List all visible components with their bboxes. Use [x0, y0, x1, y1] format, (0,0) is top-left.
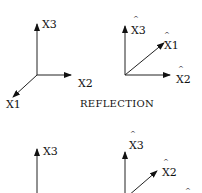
partial-hat-mark: ^: [185, 187, 191, 193]
x2-hat-mark: ^: [163, 158, 169, 166]
bottom-right-axes: ^ X3 ^ X2 ^: [125, 130, 191, 193]
x2-hat-label: X2: [162, 166, 177, 179]
x2-hat-label: X2: [176, 73, 191, 86]
x2-label: X2: [78, 77, 93, 90]
x3-hat-label: X3: [129, 139, 144, 152]
x1-hat-label: X1: [164, 39, 179, 52]
x3-hat-mark: ^: [133, 15, 139, 23]
top-right-axes: ^ X3 ^ X1 ^ X2: [125, 15, 191, 86]
x3-label: X3: [42, 18, 57, 31]
x2-hat-axis-arrow: [128, 171, 157, 193]
bottom-left-axes: X3: [37, 145, 58, 193]
x3-hat-mark: ^: [130, 130, 136, 138]
x2-hat-mark: ^: [178, 65, 184, 73]
coordinate-diagram: X3 X2 X1 ^ X3 ^ X1 ^ X2 REFLECTION X3 ^ …: [0, 0, 202, 193]
x3-hat-label: X3: [131, 24, 146, 37]
x3-label: X3: [43, 145, 58, 158]
x1-axis-arrow: [13, 75, 37, 97]
x1-hat-mark: ^: [164, 31, 170, 39]
x1-hat-axis-arrow: [125, 43, 164, 75]
x1-label: X1: [6, 98, 21, 111]
reflection-caption: REFLECTION: [80, 98, 154, 109]
